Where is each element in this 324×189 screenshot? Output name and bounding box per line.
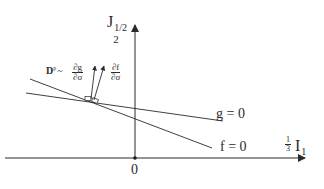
- plastic-potential-line-g: [26, 93, 223, 121]
- origin-label: 0: [131, 163, 138, 177]
- df-dsigma-arrow: [94, 66, 104, 100]
- horizontal-axis-label-base: I: [295, 137, 300, 154]
- origin-point: [133, 156, 137, 160]
- dg-denominator: ∂σ: [72, 73, 83, 82]
- dg-dsigma-label: ∂g ∂σ: [72, 63, 83, 82]
- horizontal-axis-label-sub: 1: [301, 146, 306, 157]
- plastic-strain-sup: p: [53, 65, 56, 71]
- horizontal-axis-fraction: 1 3: [285, 136, 291, 153]
- plastic-strain-label: Dp~: [46, 66, 63, 76]
- proportional-symbol: ~: [57, 65, 62, 76]
- fraction-denominator: 3: [285, 145, 291, 153]
- g-curve-label: g = 0: [216, 107, 245, 121]
- diagram-canvas: [0, 0, 324, 189]
- f-curve-label: f = 0: [220, 140, 247, 154]
- yield-function-line-f: [30, 79, 212, 148]
- yield-surface-diagram: J21/2 1 3 I1 0 g = 0 f = 0 Dp~ ∂g ∂σ ∂f …: [0, 0, 324, 189]
- vertical-axis-label-sup: 1/2: [114, 23, 127, 33]
- df-dsigma-label: ∂f ∂σ: [110, 63, 121, 82]
- dg-dsigma-arrow: [91, 66, 95, 99]
- df-denominator: ∂σ: [110, 73, 121, 82]
- vertical-axis-label-base: J: [107, 13, 113, 30]
- vertical-axis-label-sub: 2: [113, 34, 119, 45]
- horizontal-axis-label: I1: [295, 138, 306, 154]
- vertical-axis-label: J21/2: [107, 14, 113, 30]
- intersection-marker-left: [85, 97, 91, 101]
